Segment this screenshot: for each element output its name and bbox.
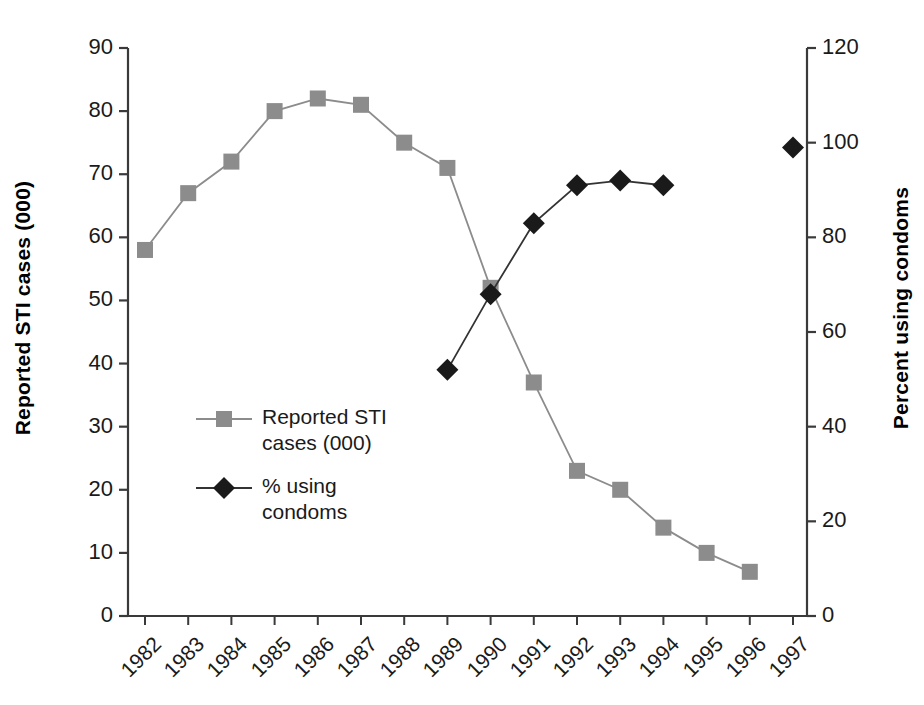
- data-point-marker: [526, 374, 542, 390]
- legend-label: Reported STI cases (000): [262, 404, 387, 456]
- left-axis-tick-label: 20: [61, 476, 113, 502]
- right-axis-tick-label: 0: [822, 602, 878, 628]
- right-axis-tick-label: 120: [822, 34, 878, 60]
- left-axis-tick-label: 60: [61, 223, 113, 249]
- data-point-marker: [782, 136, 804, 158]
- legend-markers: [196, 411, 252, 499]
- data-point-marker: [569, 463, 585, 479]
- right-axis-tick-label: 40: [822, 413, 878, 439]
- legend-marker-square: [216, 411, 232, 427]
- data-point-marker: [652, 174, 674, 196]
- data-point-marker: [742, 564, 758, 580]
- data-point-marker: [223, 154, 239, 170]
- series-line: [447, 181, 663, 370]
- right-axis-tick-label: 80: [822, 223, 878, 249]
- data-point-marker: [180, 185, 196, 201]
- data-point-marker: [436, 359, 458, 381]
- left-axis-tick-label: 80: [61, 97, 113, 123]
- data-point-marker: [612, 482, 628, 498]
- left-axis-tick-label: 40: [61, 350, 113, 376]
- left-axis-tick-label: 0: [61, 602, 113, 628]
- data-point-marker: [396, 135, 412, 151]
- series-sti-cases: [137, 90, 758, 579]
- data-point-marker: [699, 545, 715, 561]
- plot-area: [0, 0, 924, 705]
- data-point-marker: [609, 170, 631, 192]
- data-point-marker: [137, 242, 153, 258]
- legend-marker-diamond: [213, 477, 235, 499]
- left-axis-tick-label: 50: [61, 286, 113, 312]
- legend-label: % using condoms: [262, 473, 347, 525]
- data-point-marker: [353, 97, 369, 113]
- tick-marks: [119, 48, 816, 625]
- right-axis-tick-label: 20: [822, 507, 878, 533]
- right-axis-tick-label: 100: [822, 129, 878, 155]
- data-point-marker: [267, 103, 283, 119]
- chart-figure: Reported STI cases (000) Percent using c…: [0, 0, 924, 705]
- left-axis-tick-label: 90: [61, 34, 113, 60]
- axis-lines: [128, 48, 807, 616]
- left-axis-tick-label: 10: [61, 539, 113, 565]
- data-series: [137, 90, 804, 579]
- left-axis-tick-label: 70: [61, 160, 113, 186]
- right-axis-tick-label: 60: [822, 318, 878, 344]
- data-point-marker: [310, 90, 326, 106]
- series-percent-condoms: [436, 136, 804, 380]
- left-axis-tick-label: 30: [61, 413, 113, 439]
- data-point-marker: [655, 520, 671, 536]
- data-point-marker: [439, 160, 455, 176]
